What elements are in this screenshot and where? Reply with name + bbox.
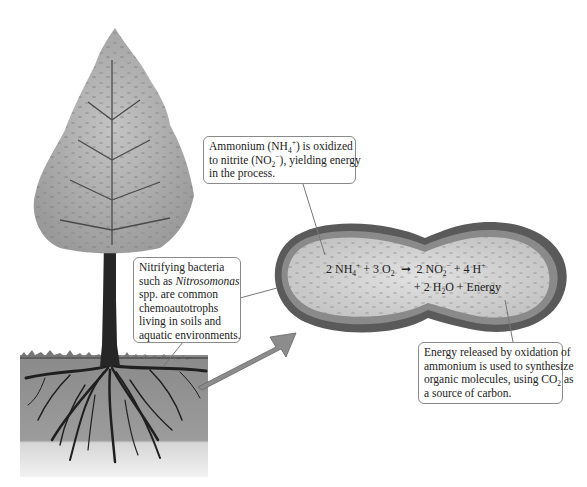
callout-line: chemoautotrophs	[139, 302, 235, 316]
text: organic molecules, using CO	[424, 373, 557, 385]
callout-line: in the process.	[209, 167, 350, 181]
tree-foliage	[34, 28, 194, 253]
subscript: 4	[352, 269, 356, 278]
reaction-arrow-icon: ➞	[401, 262, 411, 277]
callout-ammonium-oxidation: Ammonium (NH4+) is oxidized to nitrite (…	[203, 136, 356, 184]
callout-line: Nitrifying bacteria	[139, 261, 235, 275]
equation-product-water: + 2 H	[414, 280, 441, 294]
text: Ammonium (NH	[209, 140, 288, 152]
callout-line: to nitrite (NO2−), yielding energy	[209, 154, 350, 168]
tree-trunk	[100, 240, 120, 366]
connector-bacteria-cell	[240, 288, 277, 298]
text: ), yielding energy	[280, 154, 361, 166]
callout-line: a source of carbon.	[424, 387, 557, 401]
superscript: +	[481, 261, 485, 270]
bacterium-cell	[275, 222, 567, 333]
equation-reactant-ammonium: 2 NH	[326, 262, 352, 276]
callout-line: aquatic environments.	[139, 329, 235, 343]
equation-product-nitrite: 2 NO	[417, 262, 443, 276]
subscript: 2	[391, 269, 395, 278]
callout-line: ammonium is used to synthesize	[424, 360, 557, 374]
callout-line: living in soils and	[139, 315, 235, 329]
callout-line: organic molecules, using CO2 as	[424, 373, 557, 387]
callout-line: such as Nitrosomonas	[139, 275, 235, 289]
text: such as	[139, 275, 175, 287]
equation-product-energy: O + Energy	[445, 280, 501, 294]
equation-product-hydrogen: + 4 H	[451, 262, 481, 276]
text: ) is oxidized	[296, 140, 353, 152]
equation-line-2: + 2 H2O + Energy	[414, 280, 501, 295]
illustration	[0, 0, 587, 487]
equation-line-1: 2 NH4+ + 3 O2 ➞ 2 NO2− + 4 H+	[326, 262, 486, 277]
equation-reactant-oxygen: + 3 O	[360, 262, 390, 276]
diagram-canvas: 2 NH4+ + 3 O2 ➞ 2 NO2− + 4 H+ + 2 H2O + …	[0, 0, 587, 487]
text: to nitrite (NO	[209, 154, 272, 166]
text: as	[561, 373, 573, 385]
genus-name: Nitrosomonas	[175, 275, 239, 287]
callout-energy-release: Energy released by oxidation of ammonium…	[418, 342, 563, 404]
subscript: 2	[443, 269, 447, 278]
callout-line: spp. are common	[139, 288, 235, 302]
callout-line: Energy released by oxidation of	[424, 346, 557, 360]
callout-nitrifying-bacteria: Nitrifying bacteria such as Nitrosomonas…	[133, 257, 241, 343]
